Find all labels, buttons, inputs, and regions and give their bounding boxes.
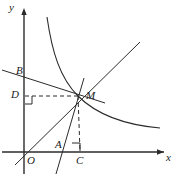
point-label-o: O (27, 155, 35, 166)
point-label-a: A (55, 139, 62, 150)
geometry-figure: y x O A C D B M (0, 0, 176, 180)
axes-group (2, 8, 164, 174)
point-label-m: M (86, 90, 95, 101)
hyperbola-branch (47, 17, 160, 128)
y-axis-label: y (9, 2, 14, 13)
point-label-b: B (16, 65, 23, 76)
line-through-origin (15, 42, 140, 165)
point-label-c: C (76, 155, 83, 166)
x-axis-label: x (166, 152, 171, 163)
y-axis-arrowhead (21, 8, 26, 15)
right-angle-mark-at-d (25, 96, 32, 104)
x-axis-arrowhead (157, 149, 164, 154)
point-label-d: D (11, 89, 19, 100)
right-angle-mark-at-c (72, 143, 80, 151)
